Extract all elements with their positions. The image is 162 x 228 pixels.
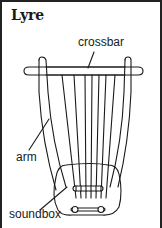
arm-leader-line [29, 119, 49, 150]
soundbox-label: soundbox [9, 207, 61, 221]
bridge [73, 186, 103, 191]
right-arm-shape [110, 57, 131, 187]
arm-label: arm [16, 150, 37, 164]
tailpiece [71, 207, 105, 213]
crossbar-leader-line [88, 52, 94, 68]
strings [62, 75, 115, 198]
diagram-frame: Lyre [0, 0, 162, 228]
crossbar-label: crossbar [78, 35, 124, 49]
